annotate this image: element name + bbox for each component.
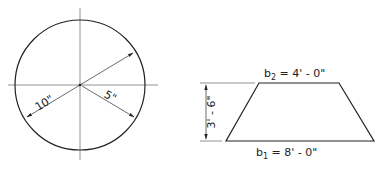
bottom-base-label: b1 = 8' - 0" — [256, 146, 317, 161]
diameter-label: 10" — [33, 93, 56, 114]
circle-figure: 10" 5" — [8, 8, 158, 160]
radius-label: 5" — [102, 88, 119, 105]
trapezoid-outline — [226, 83, 374, 141]
top-base-label: b2 = 4' - 0" — [264, 67, 325, 82]
trapezoid-figure: 3' - 6" b2 = 4' - 0" b1 = 8' - 0" — [200, 67, 374, 161]
center-point — [79, 84, 82, 87]
height-label: 3' - 6" — [205, 95, 218, 128]
drawing-canvas: 10" 5" 3' - 6" b2 = 4' - 0" b1 = 8' - 0" — [0, 0, 380, 175]
